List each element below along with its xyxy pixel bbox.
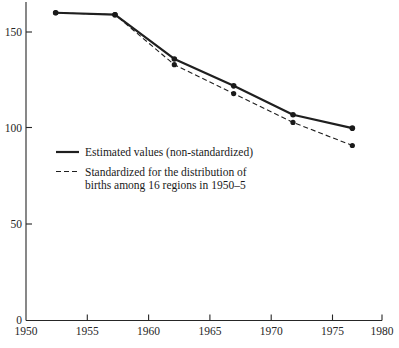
data-point [53,10,59,16]
series-line-standardized [56,13,353,146]
legend-label-estimated: Estimated values (non-standardized) [85,146,253,159]
x-tick-label-1955: 1955 [76,325,99,337]
series-markers-estimated [53,10,355,131]
line-chart: 150 100 50 0 1950 1955 1960 1965 1970 19… [0,0,399,348]
data-point [172,62,177,67]
x-tick-label-1965: 1965 [198,325,221,337]
data-point [231,91,236,96]
data-point [112,12,118,18]
series-line-estimated [56,13,353,128]
x-tick-label-1950: 1950 [15,325,38,337]
legend-label-standardized-line1: Standardized for the distribution of [85,166,247,178]
x-tick-label-1960: 1960 [137,325,160,337]
y-tick-label-150: 150 [5,26,23,38]
x-axis-ticks [87,315,382,321]
data-point [231,83,237,89]
data-point [290,112,296,118]
x-tick-label-1980: 1980 [371,325,394,337]
data-point [350,125,356,131]
y-tick-label-50: 50 [11,218,23,230]
y-axis-ticks [26,32,32,224]
data-point [350,143,355,148]
chart-canvas: 150 100 50 0 1950 1955 1960 1965 1970 19… [0,0,399,348]
y-tick-label-100: 100 [5,122,23,134]
x-axis-tick-labels: 1950 1955 1960 1965 1970 1975 1980 [15,325,394,337]
legend-label-standardized-line2: births among 16 regions in 1950–5 [85,179,246,192]
x-tick-label-1970: 1970 [260,325,283,337]
chart-legend: Estimated values (non-standardized) Stan… [56,146,253,192]
x-tick-label-1975: 1975 [321,325,344,337]
data-point [290,120,295,125]
data-point [172,56,178,62]
y-axis-tick-labels: 150 100 50 0 [5,26,23,326]
